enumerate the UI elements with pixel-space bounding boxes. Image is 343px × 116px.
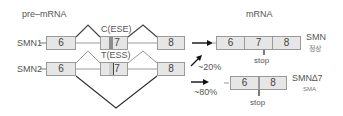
inclusion-percent-value: 20% xyxy=(203,62,221,72)
smn1-exon-6: 6 xyxy=(46,36,76,50)
ese-site-stripe xyxy=(109,37,113,49)
smn-delta7-mrna-exon-6: 6 xyxy=(230,76,259,90)
smn2-exon-7-label: 7 xyxy=(114,64,120,74)
smn1-exon-7-label: 7 xyxy=(114,38,120,48)
smn2-site-label: T(ESS) xyxy=(101,51,131,60)
smn-delta7-mrna-exon-8: 8 xyxy=(259,76,287,90)
smn1-exon-7: 7 xyxy=(100,36,128,50)
smn1-gene-label: SMN1 xyxy=(17,39,42,48)
smn2-gene-label: SMN2 xyxy=(17,65,42,74)
smn-delta7-product-name: SMN∆7 xyxy=(292,74,323,83)
smn1-splice-arc-6-7 xyxy=(76,25,100,37)
smn1-exon-8: 8 xyxy=(157,36,185,50)
smn1-arrow-head xyxy=(207,40,213,46)
smn-stop-label: stop xyxy=(254,57,269,65)
smn-delta7-product-status: SMA xyxy=(303,86,316,92)
smn1-splice-arc-7-8 xyxy=(128,25,157,37)
smn2-exon-6: 6 xyxy=(46,62,76,76)
smn1-site-label: C(ESE) xyxy=(101,25,132,34)
smn-mrna-exon-8: 8 xyxy=(272,36,301,50)
smn2-skip-arrow-head xyxy=(203,79,209,85)
ess-site-stripe xyxy=(109,63,114,75)
smn2-splice-arc-7-8 xyxy=(128,51,157,63)
smn-mrna-exon-7: 7 xyxy=(244,36,273,50)
smn2-exon-8: 8 xyxy=(157,62,185,76)
pre-mrna-heading: pre–mRNA xyxy=(22,10,67,19)
smn-mrna-exon-6: 6 xyxy=(216,36,245,50)
smn2-splice-arc-6-7 xyxy=(76,51,100,63)
smn2-exon-7: 7 xyxy=(100,62,128,76)
skipping-percent-value: 80% xyxy=(199,87,217,97)
skipping-percent: ~80% xyxy=(194,88,217,97)
smn-product-status: 정상 xyxy=(309,45,321,52)
smn2-skip-arc xyxy=(76,76,157,108)
mrna-heading: mRNA xyxy=(246,10,273,19)
smn-delta7-stop-label: stop xyxy=(250,99,265,107)
inclusion-percent: ~20% xyxy=(198,63,221,72)
smn-product-name: SMN xyxy=(306,33,326,42)
